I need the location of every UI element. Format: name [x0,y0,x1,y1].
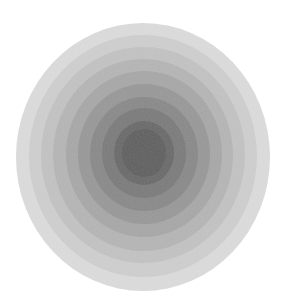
canvas [0,0,291,307]
ring-10 [122,129,166,177]
concentric-circles-graphic [0,0,291,307]
rings-group [16,23,270,291]
